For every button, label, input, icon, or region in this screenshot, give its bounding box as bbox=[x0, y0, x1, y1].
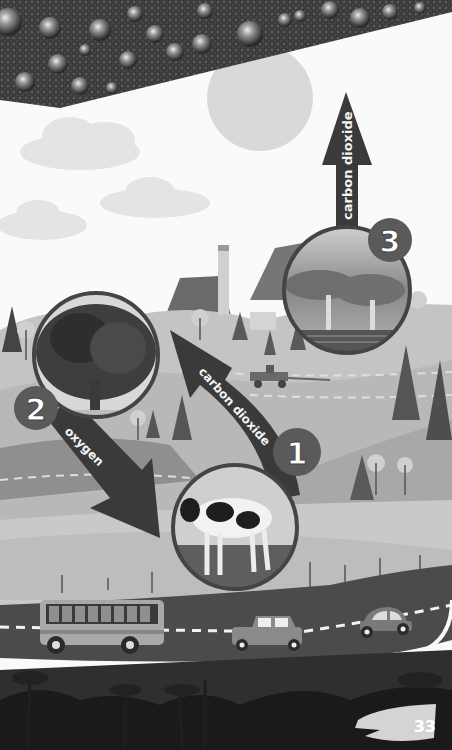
page-number: 33 bbox=[414, 717, 436, 736]
svg-text:2: 2 bbox=[26, 392, 47, 427]
step-badge-3: 3 bbox=[368, 218, 412, 262]
svg-text:1: 1 bbox=[287, 436, 308, 471]
chimney bbox=[218, 245, 229, 315]
step-badge-2: 2 bbox=[14, 386, 58, 430]
book-page: carbon dioxide carbon dioxide oxygen bbox=[0, 0, 452, 750]
arrow-3-label: carbon dioxide bbox=[340, 111, 355, 220]
svg-text:3: 3 bbox=[380, 224, 401, 259]
carbon-cycle-illustration: carbon dioxide carbon dioxide oxygen bbox=[0, 0, 452, 750]
step-badge-1: 1 bbox=[273, 428, 321, 476]
